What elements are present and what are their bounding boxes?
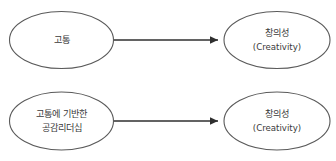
node-pain-based-empathic-leadership-label-line1: 고통에 기반한	[36, 108, 88, 119]
node-pain-based-empathic-leadership[interactable]: 고통에 기반한 공감리더십	[10, 92, 114, 150]
diagram-svg: 고통 창의성 (Creativity) 고통에 기반한 공감리더십	[0, 0, 336, 161]
node-pain[interactable]: 고통	[10, 12, 114, 69]
edge-1-arrow-head-icon	[210, 36, 218, 44]
edge-2	[114, 117, 218, 125]
node-creativity-2-label-line2: (Creativity)	[253, 123, 301, 133]
edge-1	[114, 36, 218, 44]
node-creativity-2-label-line1: 창의성	[265, 108, 289, 119]
node-pain-label: 고통	[54, 34, 70, 45]
node-pain-based-empathic-leadership-label-line2: 공감리더십	[42, 122, 82, 133]
diagram-row-1: 고통 창의성 (Creativity)	[10, 12, 331, 69]
node-creativity-1[interactable]: 창의성 (Creativity)	[224, 12, 330, 69]
node-creativity-1-shape[interactable]	[224, 12, 330, 69]
diagram-row-2: 고통에 기반한 공감리더십 창의성 (Creativity)	[10, 92, 331, 150]
edge-2-arrow-head-icon	[210, 117, 218, 125]
node-creativity-2-shape[interactable]	[224, 92, 330, 150]
diagram-canvas: 고통 창의성 (Creativity) 고통에 기반한 공감리더십	[0, 0, 336, 161]
node-creativity-2[interactable]: 창의성 (Creativity)	[224, 92, 330, 150]
node-creativity-1-label-line1: 창의성	[265, 27, 289, 38]
node-creativity-1-label-line2: (Creativity)	[253, 42, 301, 52]
